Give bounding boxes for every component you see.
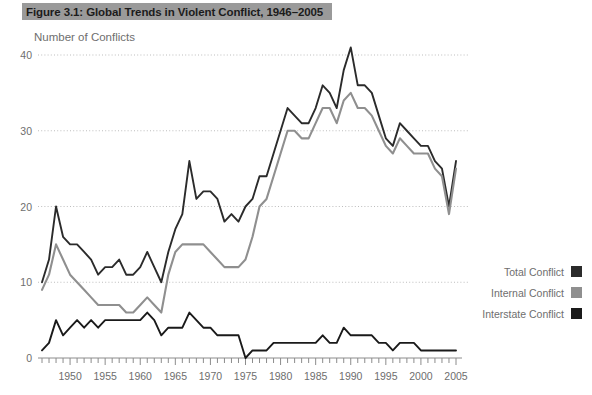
x-tick-labels-group: 1950195519601965197019751980198519901995… (58, 370, 467, 382)
chart-legend: Total ConflictInternal ConflictInterstat… (470, 261, 582, 324)
x-tick-label: 1990 (339, 370, 363, 382)
x-tick-label: 1995 (374, 370, 398, 382)
x-tick-label: 1965 (164, 370, 188, 382)
data-series-group (42, 47, 456, 358)
figure-container: Figure 3.1: Global Trends in Violent Con… (0, 0, 592, 395)
legend-color-swatch (571, 287, 582, 298)
line-chart-plot: 010203040 195019551960196519701975198019… (0, 0, 592, 395)
x-axis-group (38, 358, 462, 365)
x-tick-label: 1975 (234, 370, 258, 382)
legend-color-swatch (571, 308, 582, 319)
gridlines-group (38, 55, 470, 282)
series-line-interstate-conflict (42, 313, 456, 358)
x-tick-label: 1950 (58, 370, 82, 382)
y-tick-label: 30 (20, 125, 32, 137)
x-tick-label: 1985 (304, 370, 328, 382)
legend-item-label: Total Conflict (504, 266, 564, 278)
x-tick-label: 1970 (199, 370, 223, 382)
legend-item[interactable]: Total Conflict (470, 261, 582, 282)
legend-item[interactable]: Internal Conflict (470, 282, 582, 303)
y-tick-labels-group: 010203040 (20, 49, 32, 364)
y-tick-label: 40 (20, 49, 32, 61)
x-tick-label: 2005 (444, 370, 468, 382)
legend-item-label: Interstate Conflict (482, 308, 564, 320)
x-tick-label: 1980 (269, 370, 293, 382)
x-tick-label: 1955 (93, 370, 117, 382)
x-tick-label: 2000 (409, 370, 433, 382)
x-tick-label: 1960 (129, 370, 153, 382)
legend-color-swatch (571, 266, 582, 277)
legend-item[interactable]: Interstate Conflict (470, 303, 582, 324)
y-tick-label: 20 (20, 201, 32, 213)
y-tick-label: 0 (26, 352, 32, 364)
legend-item-label: Internal Conflict (491, 287, 564, 299)
y-tick-label: 10 (20, 276, 32, 288)
